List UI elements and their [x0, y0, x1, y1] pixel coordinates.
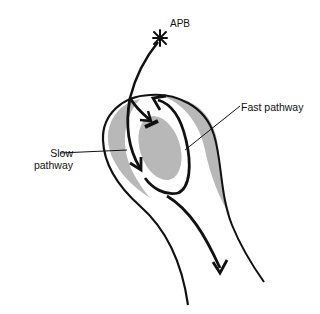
- apb-label: APB: [170, 18, 190, 30]
- impulse-path: [130, 42, 158, 98]
- apb-asterisk-icon: [153, 30, 167, 46]
- slow-pathway-label: Slow pathway: [19, 147, 73, 171]
- fast-pathway-label: Fast pathway: [241, 101, 303, 113]
